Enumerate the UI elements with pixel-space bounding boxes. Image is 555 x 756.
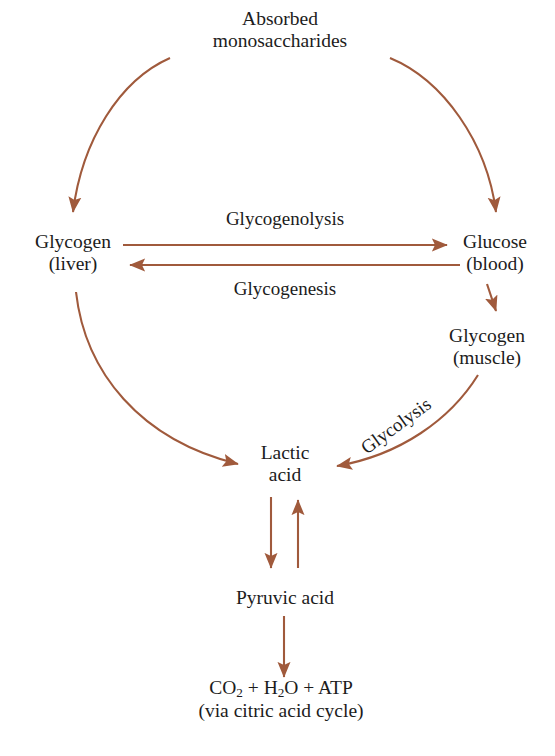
node-label-line1: Glucose — [463, 231, 527, 252]
node-lactic-acid: Lactic acid — [261, 442, 310, 486]
formula-part2: + H — [243, 677, 278, 698]
formula-part3: O + ATP — [284, 677, 352, 698]
arrow-glycogen-liver-to-lactic-acid — [76, 292, 238, 464]
arrow-absorbed-to-glucose-blood — [390, 58, 496, 212]
node-label-line2: (liver) — [35, 253, 111, 275]
node-glycogen-liver: Glycogen (liver) — [35, 231, 111, 275]
node-absorbed-monosaccharides: Absorbed monosaccharides — [213, 8, 347, 52]
node-pyruvic-acid: Pyruvic acid — [236, 587, 334, 609]
node-label-line2: monosaccharides — [213, 30, 347, 52]
node-label-line1: Pyruvic acid — [236, 587, 334, 608]
node-glucose-blood: Glucose (blood) — [463, 231, 527, 275]
arrow-glucose-to-glycogen-muscle — [487, 284, 496, 311]
node-label-line2: acid — [261, 464, 310, 486]
node-label-line2: (muscle) — [449, 347, 525, 369]
formula-part1: CO — [209, 677, 236, 698]
arrow-absorbed-to-glycogen-liver — [73, 58, 170, 212]
formula-line2: (via citric acid cycle) — [198, 700, 363, 722]
node-label-line1: Lactic — [261, 442, 310, 463]
node-label-line1: Glycogen — [35, 231, 111, 252]
node-label-line2: (blood) — [463, 253, 527, 275]
edge-label-glycogenesis: Glycogenesis — [234, 278, 336, 300]
node-label-line1: Absorbed — [242, 8, 318, 29]
node-label-line1: Glycogen — [449, 325, 525, 346]
edge-label-glycogenolysis: Glycogenolysis — [226, 208, 344, 230]
arrow-layer — [0, 0, 555, 756]
formula-line1: CO2 + H2O + ATP — [209, 677, 353, 698]
node-end-products: CO2 + H2O + ATP (via citric acid cycle) — [198, 677, 363, 722]
node-glycogen-muscle: Glycogen (muscle) — [449, 325, 525, 369]
metabolism-diagram: Absorbed monosaccharides Glycogen (liver… — [0, 0, 555, 756]
formula-sub2: 2 — [278, 685, 285, 700]
